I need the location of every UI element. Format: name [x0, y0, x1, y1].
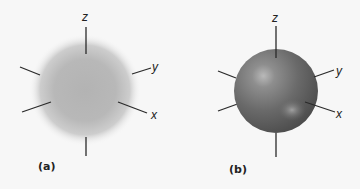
panel-label: (b) [229, 163, 247, 176]
diffuse-sphere [29, 34, 141, 146]
x-label: x [335, 107, 343, 121]
panel-b: z y x (b) [218, 11, 343, 176]
y-label: y [335, 64, 343, 78]
sphere-highlight [278, 99, 306, 121]
orbital-figure: z y x (a) z y x (b) [0, 0, 360, 189]
solid-sphere [234, 49, 318, 133]
z-label: z [271, 11, 278, 25]
z-label: z [81, 10, 88, 24]
panel-label: (a) [38, 160, 55, 173]
y-axis-front [314, 70, 334, 77]
panel-a: z y x (a) [20, 10, 159, 173]
y-axis-back [218, 71, 236, 78]
x-label: x [150, 108, 158, 122]
y-label: y [151, 60, 159, 74]
